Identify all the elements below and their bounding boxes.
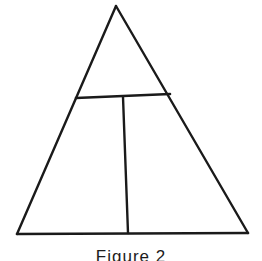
figure-drawing <box>0 0 262 261</box>
figure-background <box>0 0 262 261</box>
figure-caption: Figure 2 <box>0 247 262 261</box>
outer-triangle-base <box>17 233 248 234</box>
figure-page: Figure 2 <box>0 0 262 261</box>
